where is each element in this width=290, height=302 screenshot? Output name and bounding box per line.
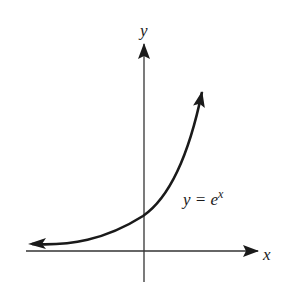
x-axis-label: x — [262, 245, 271, 264]
curve-label: y = ex — [181, 187, 224, 209]
y-axis-label: y — [138, 21, 148, 40]
curve-label-exponent: x — [217, 187, 224, 201]
curve-label-base: y = e — [181, 190, 219, 209]
exponential-curve — [32, 92, 202, 244]
exponential-graph: y x y = ex — [0, 0, 290, 302]
